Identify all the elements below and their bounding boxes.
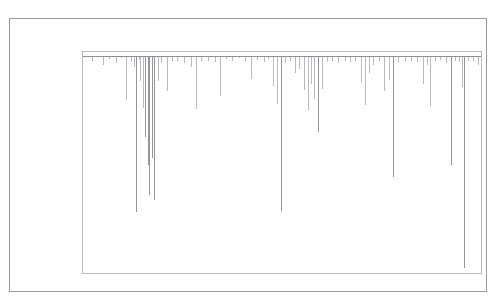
drawdown-spike	[464, 56, 465, 268]
y-axis-tick-mark	[82, 213, 83, 214]
drawdown-spike	[172, 56, 173, 62]
drawdown-spike	[393, 56, 394, 177]
drawdown-spike	[161, 56, 162, 63]
drawdown-spike	[430, 56, 431, 106]
drawdown-spike	[131, 56, 132, 62]
drawdown-spike	[478, 56, 479, 65]
x-axis-tick-mark	[460, 273, 461, 274]
drawdown-spike	[332, 56, 333, 62]
drawdown-spike	[201, 56, 202, 61]
drawdown-spike	[109, 56, 110, 59]
drawdown-spike	[239, 56, 240, 58]
drawdown-spike	[459, 56, 460, 62]
drawdown-spike	[440, 56, 441, 60]
drawdown-spike	[361, 56, 362, 82]
drawdown-spike	[299, 56, 300, 69]
drawdown-spike	[116, 56, 117, 63]
y-axis-tick-mark	[82, 253, 83, 254]
drawdown-spike	[338, 56, 339, 63]
figure-title: FIGURE 1: MAXIMUM DRAWDOWN OF THE S&P 50…	[10, 0, 480, 3]
drawdown-spike	[273, 56, 274, 86]
y-axis-tick-mark	[82, 134, 83, 135]
drawdown-spike	[468, 56, 469, 62]
drawdown-spike	[149, 56, 150, 195]
drawdown-spike	[311, 56, 312, 84]
drawdown-spike	[143, 56, 144, 108]
drawdown-spike	[365, 56, 366, 105]
drawdown-spike	[327, 56, 328, 62]
drawdown-spike	[184, 56, 185, 63]
drawdown-spike	[268, 56, 269, 59]
drawdown-spike	[277, 56, 278, 104]
drawdown-spike	[191, 56, 192, 67]
drawdown-spike	[257, 56, 258, 60]
drawdown-spike	[435, 56, 436, 62]
x-axis-tick-mark	[132, 273, 133, 274]
drawdown-spike	[281, 56, 282, 211]
drawdown-spike	[411, 56, 412, 62]
drawdown-spike	[384, 56, 385, 92]
drawdown-spike	[446, 56, 447, 63]
drawdown-spike	[251, 56, 252, 79]
figure-frame: 0.750.800.850.900.951.001980199020002010…	[9, 18, 487, 292]
x-axis-tick-mark	[296, 273, 297, 274]
drawdown-spike	[423, 56, 424, 84]
y-axis-tick-mark	[82, 174, 83, 175]
y-axis-tick-mark	[82, 95, 83, 96]
drawdown-spike	[295, 56, 296, 73]
drawdown-spike	[285, 56, 286, 63]
x-axis-tick-mark	[214, 273, 215, 274]
drawdown-spike	[140, 56, 141, 81]
drawdown-spike	[308, 56, 309, 110]
drawdown-spike	[208, 56, 209, 62]
drawdown-spike	[373, 56, 374, 65]
drawdown-spike	[177, 56, 178, 61]
drawdown-spike	[245, 56, 246, 62]
drawdown-spike	[152, 56, 153, 158]
drawdown-spike	[318, 56, 319, 133]
drawdown-spike	[134, 56, 135, 67]
drawdown-spike	[417, 56, 418, 62]
drawdown-spike	[322, 56, 323, 89]
drawdown-spike	[215, 56, 216, 62]
drawdown-spike	[158, 56, 159, 81]
drawdown-spike	[350, 56, 351, 62]
drawdown-spike	[126, 56, 127, 100]
drawdown-spike	[451, 56, 452, 165]
drawdown-spike	[473, 56, 474, 61]
drawdown-spike	[121, 56, 122, 58]
drawdown-spike	[427, 56, 428, 65]
drawdown-spike	[154, 56, 155, 200]
drawdown-spike	[389, 56, 390, 80]
drawdown-spike	[314, 56, 315, 99]
drawdown-spike	[405, 56, 406, 61]
drawdown-spike	[145, 56, 146, 137]
drawdown-spike	[264, 56, 265, 62]
drawdown-spike	[379, 56, 380, 62]
x-axis-tick-mark	[378, 273, 379, 274]
drawdown-spike	[398, 56, 399, 63]
plot-area: 0.750.800.850.900.951.001980199020002010…	[82, 51, 482, 274]
drawdown-spike	[355, 56, 356, 62]
drawdown-spike	[103, 56, 104, 65]
drawdown-spike	[304, 56, 305, 90]
drawdown-spike	[345, 56, 346, 61]
drawdown-spike	[290, 56, 291, 61]
drawdown-spike	[92, 56, 93, 62]
drawdown-spike	[220, 56, 221, 96]
drawdown-spike	[136, 56, 137, 212]
drawdown-spike	[226, 56, 227, 59]
drawdown-spike	[455, 56, 456, 61]
drawdown-spike	[232, 56, 233, 61]
drawdown-spike	[369, 56, 370, 73]
drawdown-spike	[196, 56, 197, 109]
drawdown-spike	[462, 56, 463, 87]
drawdown-spike	[167, 56, 168, 92]
